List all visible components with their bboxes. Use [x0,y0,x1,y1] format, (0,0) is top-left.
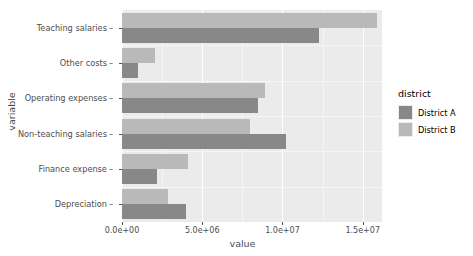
x-axis-tick-mark [202,222,203,225]
bar [122,63,138,78]
gridline-horizontal-minor [122,81,382,82]
y-axis-tick-mark [119,204,122,205]
y-axis-tick-label: Operating expenses– [25,93,113,103]
y-axis-tick-mark [119,28,122,29]
legend-item-label: District B [418,125,456,135]
legend-color-swatch [398,122,413,137]
bar [122,154,188,169]
y-axis-tick-text: Operating expenses [25,93,107,103]
y-axis-tick-label: Non-teaching salaries– [18,129,113,139]
y-axis-tick-dash: – [109,23,113,33]
y-axis-tick-text: Other costs [60,58,107,68]
bar [122,13,377,28]
y-axis-tick-dash: – [109,164,113,174]
y-axis-tick-label: Finance expense– [39,164,113,174]
legend-item[interactable]: District A [398,105,470,120]
x-axis-tick-mark [122,222,123,225]
x-axis-tick-mark [363,222,364,225]
y-axis-tick-mark [119,63,122,64]
gridline-horizontal-minor [122,116,382,117]
y-axis-tick-label: Teaching salaries– [37,23,113,33]
y-axis-tick-dash: – [109,199,113,209]
x-axis-tick-label: 1.5e+07 [345,226,380,235]
bar [122,189,168,204]
bar [122,204,186,219]
y-axis-tick-mark [119,98,122,99]
y-axis-tick-mark [119,134,122,135]
legend-items: District ADistrict B [398,105,470,137]
x-axis-tick-label: 0.0e+00 [105,226,140,235]
x-axis-title-label: value [230,238,256,249]
y-axis-tick-dash: – [109,58,113,68]
bar [122,98,258,113]
legend-item[interactable]: District B [398,122,470,137]
legend-color-swatch [398,105,413,120]
y-axis-tick-labels: Teaching salaries–Other costs–Operating … [20,10,117,222]
bar [122,28,319,43]
y-axis-tick-text: Teaching salaries [37,23,107,33]
x-axis-title: value [122,238,363,249]
y-axis-tick-dash: – [109,93,113,103]
legend-title: district [398,88,470,99]
gridline-horizontal-minor [122,45,382,46]
x-axis-tick-mark [282,222,283,225]
chart-container: variable Teaching salaries–Other costs–O… [0,0,473,256]
bar [122,169,157,184]
y-axis-tick-dash: – [109,129,113,139]
x-axis-tick-label: 5.0e+06 [185,226,220,235]
legend-swatch-fill [399,123,412,136]
y-axis-title-label: variable [6,92,17,130]
legend-item-label: District A [418,108,456,118]
bar [122,48,155,63]
gridline-horizontal-minor [122,151,382,152]
x-axis-tick-label: 1.0e+07 [265,226,300,235]
y-axis-tick-label: Depreciation– [55,199,113,209]
y-axis-tick-text: Non-teaching salaries [18,129,107,139]
gridline-horizontal-minor [122,187,382,188]
bar [122,83,265,98]
x-axis-ticks: 0.0e+005.0e+061.0e+071.5e+07 [122,222,382,238]
plot-panel [122,10,382,222]
bar [122,134,286,149]
legend-swatch-fill [399,106,412,119]
legend: district District ADistrict B [398,88,470,139]
bar [122,119,250,134]
y-axis-tick-label: Other costs– [60,58,113,68]
y-axis-tick-text: Finance expense [39,164,107,174]
y-axis-tick-mark [119,169,122,170]
y-axis-tick-text: Depreciation [55,199,107,209]
y-axis-title: variable [0,0,22,222]
